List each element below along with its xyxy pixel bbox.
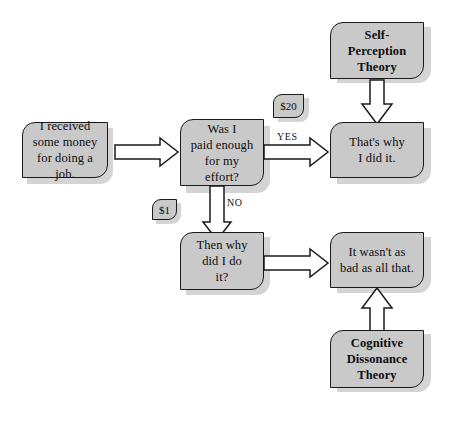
- edge-label-yes: YES: [277, 131, 298, 142]
- node-received-money-label: I received some money for doing a job.: [23, 118, 107, 182]
- node-cognitive-dissonance-theory[interactable]: Cognitive Dissonance Theory: [330, 330, 424, 388]
- arrow-then-why-to-not-as-bad: [264, 249, 328, 277]
- edge-label-no: NO: [227, 197, 243, 208]
- node-self-perception-theory[interactable]: Self- Perception Theory: [330, 22, 424, 79]
- arrow-cognitive-dissonance-to-not-as-bad: [362, 288, 392, 332]
- node-cognitive-dissonance-theory-label: Cognitive Dissonance Theory: [343, 335, 412, 383]
- node-received-money[interactable]: I received some money for doing a job.: [22, 122, 108, 178]
- node-not-as-bad[interactable]: It wasn't as bad as all that.: [330, 232, 424, 288]
- node-paid-enough-label: Was I paid enough for my effort?: [187, 121, 258, 185]
- node-thats-why[interactable]: That's why I did it.: [330, 122, 424, 178]
- node-self-perception-theory-label: Self- Perception Theory: [344, 27, 410, 75]
- node-paid-enough[interactable]: Was I paid enough for my effort?: [180, 119, 264, 186]
- node-not-as-bad-label: It wasn't as bad as all that.: [336, 244, 418, 276]
- tag-twenty-dollars-label: $20: [280, 100, 297, 112]
- arrow-received-to-paid: [115, 138, 178, 166]
- tag-one-dollar[interactable]: $1: [152, 199, 177, 220]
- arrow-self-perception-to-thats-why: [362, 80, 392, 124]
- node-thats-why-label: That's why I did it.: [345, 134, 409, 166]
- node-then-why[interactable]: Then why did I do it?: [180, 232, 264, 290]
- tag-twenty-dollars[interactable]: $20: [273, 94, 304, 118]
- node-then-why-label: Then why did I do it?: [192, 237, 251, 285]
- tag-one-dollar-label: $1: [159, 204, 170, 216]
- flow-diagram: I received some money for doing a job. W…: [0, 0, 449, 422]
- arrow-paid-to-thats-why: [264, 138, 328, 166]
